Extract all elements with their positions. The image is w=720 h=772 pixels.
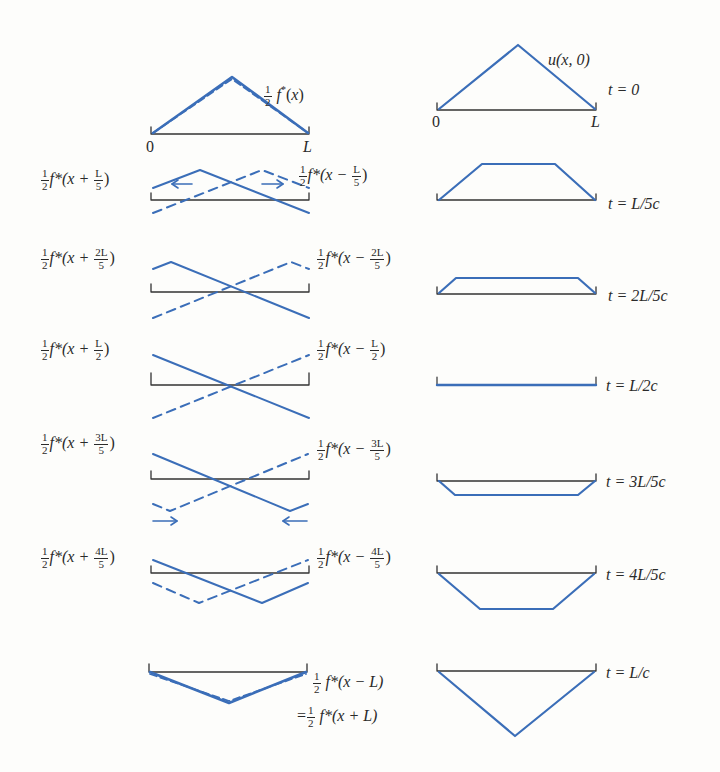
- label-left-plus-2: 12f*(x + 2L5): [40, 247, 115, 271]
- time-label-5: t = 4L/5c: [606, 567, 666, 583]
- label-left-plus-3: 12f*(x + L2): [40, 338, 109, 362]
- row-t4-left: [151, 454, 309, 525]
- row-t2-left: [151, 262, 309, 318]
- label-left-plus-5: 12f*(x + 4L5): [40, 546, 115, 570]
- label-left-minus-1: 12f*(x − L5): [298, 164, 367, 188]
- row-t6-right: [437, 664, 596, 736]
- time-label-3: t = L/2c: [606, 378, 658, 394]
- row-t1-left: [151, 170, 309, 213]
- axis-zero-right: 0: [432, 113, 440, 131]
- row-t5-right: [437, 566, 596, 609]
- time-label-1: t = L/5c: [608, 196, 660, 212]
- axis-L-left: L: [303, 138, 312, 156]
- axis-L-right: L: [591, 113, 600, 131]
- row-t6-left: [149, 664, 307, 703]
- row-t4-right: [437, 474, 596, 495]
- axis-zero-left: 0: [146, 138, 154, 156]
- row-t3-left: [151, 355, 309, 418]
- row-t3-right: [437, 377, 596, 385]
- label-bottom-minus-L: 12 f*(x − L): [312, 671, 383, 695]
- label-left-plus-4: 12f*(x + 3L5): [40, 432, 115, 456]
- label-left-minus-5: 12f*(x − 4L5): [316, 546, 391, 570]
- label-bottom-plus-L: =12 f*(x + L): [297, 705, 377, 729]
- label-left-minus-2: 12f*(x − 2L5): [316, 247, 391, 271]
- time-label-6: t = L/c: [606, 665, 650, 681]
- time-label-2: t = 2L/5c: [608, 288, 668, 304]
- row-t2-right: [437, 278, 596, 294]
- time-label-4: t = 3L/5c: [606, 474, 666, 490]
- label-left-minus-4: 12f*(x − 3L5): [316, 438, 391, 462]
- row-t1-right: [437, 164, 596, 200]
- label-left-plus-1: 12f*(x + L5): [40, 168, 109, 192]
- label-left-minus-3: 12f*(x − L2): [316, 338, 385, 362]
- label-u-x-0: u(x, 0): [548, 52, 590, 68]
- time-label-0: t = 0: [608, 82, 639, 98]
- label-half-f-star-x: 12 f*(x): [263, 84, 304, 108]
- row-t5-left: [151, 560, 309, 603]
